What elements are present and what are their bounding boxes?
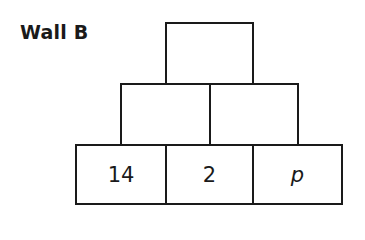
brick-middle-left xyxy=(120,83,211,146)
brick-top xyxy=(165,22,254,85)
wall-title: Wall B xyxy=(20,20,88,44)
brick-value-variable: p xyxy=(291,163,304,187)
brick-bottom-middle: 2 xyxy=(165,144,254,205)
brick-bottom-left: 14 xyxy=(75,144,167,205)
brick-bottom-right: p xyxy=(252,144,343,205)
brick-middle-right xyxy=(209,83,299,146)
brick-value: 2 xyxy=(203,163,216,187)
brick-value: 14 xyxy=(108,163,135,187)
